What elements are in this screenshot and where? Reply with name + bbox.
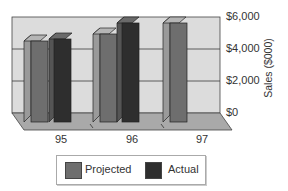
legend-label-actual: Actual xyxy=(168,163,199,175)
bar-96-projected xyxy=(93,28,117,122)
y-tick-4000: $4,000 xyxy=(226,42,260,54)
x-tick-95: 95 xyxy=(46,133,76,145)
x-tick-96: 96 xyxy=(117,133,147,145)
bar-97-projected xyxy=(163,17,187,122)
chart-legend: Projected Actual xyxy=(56,155,206,185)
legend-swatch-projected xyxy=(65,162,82,179)
y-tick-6000: $6,000 xyxy=(226,10,260,22)
legend-label-projected: Projected xyxy=(85,163,131,175)
bar-96-actual xyxy=(117,17,139,122)
y-tick-2000: $2,000 xyxy=(226,74,260,86)
bar-95-actual xyxy=(49,33,72,122)
bar-95-projected xyxy=(24,35,48,122)
y-axis-label: Sales ($000) xyxy=(262,28,274,108)
legend-swatch-actual xyxy=(145,162,162,179)
y-tick-0: $0 xyxy=(226,106,238,118)
x-tick-97: 97 xyxy=(187,133,217,145)
